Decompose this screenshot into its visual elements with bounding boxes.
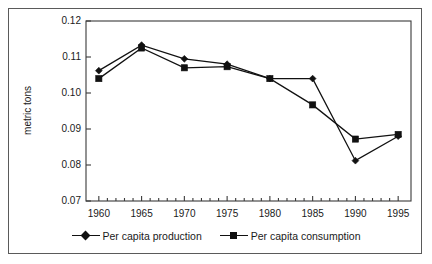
legend-label: Per capita consumption: [251, 230, 361, 242]
chart-legend: Per capita productionPer capita consumpt…: [9, 225, 423, 247]
data-point-square: [267, 76, 273, 82]
data-point-square: [395, 131, 401, 137]
y-tick-label: 0.12: [29, 16, 81, 26]
plot-area-frame: [86, 21, 411, 201]
series-line-1: [99, 45, 398, 161]
diamond-marker-icon: [80, 231, 90, 241]
data-point-diamond: [95, 67, 102, 74]
data-point-diamond: [352, 157, 359, 164]
series-line-2: [99, 48, 398, 139]
y-tick-label: 0.09: [29, 124, 81, 134]
square-marker-icon: [230, 232, 237, 239]
data-point-square: [181, 65, 187, 71]
chart-figure: metric tons 0.120.110.100.090.080.07 196…: [8, 8, 422, 254]
x-tick-label: 1990: [333, 209, 377, 219]
data-point-square: [352, 136, 358, 142]
data-point-square: [310, 102, 316, 108]
legend-label: Per capita production: [103, 230, 202, 242]
y-tick-label: 0.07: [29, 196, 81, 206]
data-point-square: [224, 64, 230, 70]
x-tick-label: 1970: [162, 209, 206, 219]
x-tick-label: 1985: [291, 209, 335, 219]
data-point-square: [138, 45, 144, 51]
data-point-diamond: [309, 75, 316, 82]
legend-item-2[interactable]: Per capita consumption: [220, 230, 361, 242]
x-tick-label: 1960: [77, 209, 121, 219]
y-tick-label: 0.10: [29, 88, 81, 98]
data-point-square: [96, 76, 102, 82]
x-tick-label: 1980: [248, 209, 292, 219]
x-tick-label: 1975: [205, 209, 249, 219]
y-axis-title: metric tons: [22, 71, 33, 151]
diamond-marker-icon: [72, 230, 100, 242]
y-tick-label: 0.08: [29, 160, 81, 170]
x-tick-label: 1995: [376, 209, 420, 219]
data-point-diamond: [181, 55, 188, 62]
square-marker-icon: [220, 230, 248, 242]
legend-item-1[interactable]: Per capita production: [72, 230, 202, 242]
x-tick-label: 1965: [120, 209, 164, 219]
y-tick-label: 0.11: [29, 52, 81, 62]
